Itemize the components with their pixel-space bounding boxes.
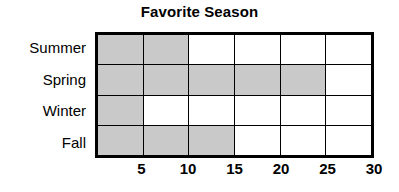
bar-row-spring bbox=[98, 65, 372, 95]
x-tick-label: 10 bbox=[168, 159, 208, 179]
grid-cell bbox=[143, 35, 189, 65]
grid-cell bbox=[326, 65, 372, 95]
grid-cell bbox=[234, 125, 280, 155]
x-tick-label: 15 bbox=[215, 159, 255, 179]
grid-cell bbox=[143, 65, 189, 95]
category-label-winter: Winter bbox=[0, 95, 89, 127]
grid-cell bbox=[189, 125, 235, 155]
grid-cell bbox=[143, 125, 189, 155]
x-tick-label: 5 bbox=[122, 159, 162, 179]
grid-cell bbox=[98, 95, 144, 125]
category-label-spring: Spring bbox=[0, 64, 89, 96]
grid-cell bbox=[189, 65, 235, 95]
category-label-fall: Fall bbox=[0, 127, 89, 159]
grid-cell bbox=[326, 95, 372, 125]
grid-cell bbox=[234, 95, 280, 125]
plot-area bbox=[95, 32, 374, 158]
category-label-summer: Summer bbox=[0, 32, 89, 64]
grid-cell bbox=[326, 35, 372, 65]
bar-row-fall bbox=[98, 125, 372, 155]
x-tick-label: 20 bbox=[261, 159, 301, 179]
x-tick-label: 30 bbox=[354, 159, 394, 179]
grid-cell bbox=[280, 65, 326, 95]
bar-grid bbox=[97, 34, 372, 156]
grid-cell bbox=[280, 125, 326, 155]
category-axis-labels: Summer Spring Winter Fall bbox=[0, 32, 89, 158]
grid-cell bbox=[189, 95, 235, 125]
grid-cell bbox=[326, 125, 372, 155]
grid-cell bbox=[98, 65, 144, 95]
grid-cell bbox=[280, 95, 326, 125]
grid-cell bbox=[189, 35, 235, 65]
grid-cell bbox=[234, 35, 280, 65]
x-tick-label: 25 bbox=[308, 159, 348, 179]
bar-row-summer bbox=[98, 35, 372, 65]
bar-row-winter bbox=[98, 95, 372, 125]
grid-cell bbox=[98, 35, 144, 65]
grid-cell bbox=[280, 35, 326, 65]
grid-cell bbox=[234, 65, 280, 95]
grid-cell bbox=[98, 125, 144, 155]
chart-title: Favorite Season bbox=[0, 3, 399, 21]
favorite-season-chart: Favorite Season Summer Spring Winter Fal… bbox=[0, 0, 399, 192]
grid-cell bbox=[143, 95, 189, 125]
x-axis-tick-labels: 5 10 15 20 25 30 bbox=[95, 159, 374, 181]
